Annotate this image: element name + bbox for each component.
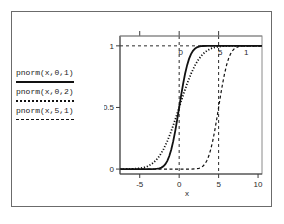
- x-tick-label: 10: [254, 180, 263, 189]
- panel-rect: [120, 36, 262, 174]
- legend-item: pnorm(x,0,1): [16, 68, 96, 85]
- x-tick-label: 0: [177, 180, 182, 189]
- x-axis-ticks: -50510: [136, 174, 263, 189]
- legend-line-sample-dashed: [16, 117, 74, 123]
- plot-svg: -50510 00.51 051 x: [104, 24, 270, 200]
- reference-label: 1: [244, 48, 249, 57]
- curve-dotted: [120, 46, 262, 169]
- legend-item: pnorm(x,5,1): [16, 106, 96, 123]
- legend-item: pnorm(x,0,2): [16, 87, 96, 104]
- plot-annotations: 051: [178, 48, 248, 57]
- plot-axes: [120, 36, 262, 174]
- y-tick-label: 1: [110, 42, 115, 51]
- reference-label: 0: [178, 48, 183, 57]
- top-axis-ticks: [120, 31, 262, 36]
- x-tick-label: -5: [136, 180, 144, 189]
- reference-lines: [120, 36, 262, 174]
- reference-label: 5: [218, 48, 223, 57]
- y-tick-label: 0.5: [104, 103, 115, 112]
- curve-dashed: [120, 46, 262, 169]
- legend-line-sample-solid: [16, 79, 74, 85]
- figure-canvas: pnorm(x,0,1) pnorm(x,0,2) pnorm(x,5,1) -…: [0, 0, 284, 224]
- y-axis-ticks: 00.51: [104, 42, 120, 174]
- legend-item-label: pnorm(x,0,2): [16, 87, 96, 97]
- legend-item-label: pnorm(x,5,1): [16, 106, 96, 116]
- chart-legend: pnorm(x,0,1) pnorm(x,0,2) pnorm(x,5,1): [16, 68, 96, 125]
- legend-item-label: pnorm(x,0,1): [16, 68, 96, 78]
- plot-area: -50510 00.51 051 x: [104, 24, 270, 200]
- y-tick-label: 0: [110, 165, 115, 174]
- legend-line-sample-dotted: [16, 98, 74, 104]
- x-axis-title: x: [185, 189, 189, 198]
- plot-panel-border: [120, 36, 262, 174]
- x-tick-label: 5: [216, 180, 221, 189]
- curve-solid: [120, 46, 262, 169]
- data-curves: [120, 46, 262, 169]
